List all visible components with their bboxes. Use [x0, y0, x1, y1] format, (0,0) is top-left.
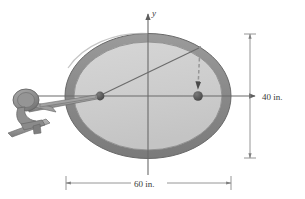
figure-canvas: x y: [0, 0, 305, 199]
y-axis-label: y: [151, 8, 156, 18]
clamp-hub-inner: [18, 93, 35, 108]
ellipse-diagram-svg: x y: [0, 0, 305, 199]
height-dimension-label: 40 in.: [262, 92, 283, 102]
width-dimension: 60 in.: [66, 175, 231, 190]
clamp-pin: [33, 124, 41, 134]
right-focus-point: [193, 91, 203, 101]
width-dimension-label: 60 in.: [134, 179, 155, 189]
